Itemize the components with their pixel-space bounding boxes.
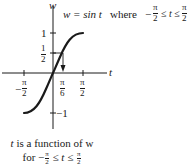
tick-label-t-pi-over-2: π 2: [80, 78, 85, 98]
tick-label-t-pi-over-6: π 6: [60, 78, 65, 98]
caption-line-1: t is a function of w: [0, 137, 104, 149]
frac-num: π: [45, 151, 49, 158]
frac-num: π: [22, 78, 27, 87]
arrow-down-icon: [61, 65, 66, 72]
frac-num: π: [77, 151, 81, 158]
frac-den: 2: [80, 89, 85, 98]
w-axis-label: w: [49, 0, 56, 11]
equation-minus: −: [145, 9, 151, 20]
caption-relation: ≤ t ≤: [50, 151, 76, 163]
frac-den: 2: [182, 14, 187, 23]
equation-lhs: w = sin t: [63, 8, 102, 20]
caption-frac-right: π2: [77, 151, 81, 166]
frac-den: 2: [41, 55, 46, 64]
caption-frac-left: π2: [45, 151, 49, 166]
caption-for: for: [22, 151, 38, 163]
frac-den: 2: [77, 159, 81, 166]
tick-label-w-half: 1 2: [41, 44, 46, 64]
frac-num: 1: [41, 44, 46, 53]
tick-label-w-1: 1: [41, 28, 47, 39]
frac-num: π: [80, 78, 85, 87]
frac-den: 2: [153, 14, 158, 23]
t-axis-label: t: [109, 67, 112, 78]
caption-line-2: for −π2 ≤ t ≤ π2: [0, 151, 104, 166]
caption-rest: is a function of w: [14, 137, 94, 149]
tick-label-w-minus-1: −1: [56, 108, 68, 119]
equation-frac-right: π 2: [182, 3, 187, 23]
tick-minus-sign: −: [15, 84, 21, 95]
caption-minus: −: [38, 151, 44, 163]
frac-den: 2: [22, 89, 27, 98]
equation-frac-left: π 2: [153, 3, 158, 23]
frac-num: π: [60, 78, 65, 87]
frac-num: π: [153, 3, 158, 12]
frac-den: 2: [45, 159, 49, 166]
equation-label: w = sin t: [63, 9, 102, 20]
equation-relation: ≤ t ≤: [161, 9, 180, 19]
tick-label-t-minus-pi-over-2: π 2: [22, 78, 27, 98]
frac-den: 6: [60, 89, 65, 98]
equation-where: where: [110, 9, 137, 20]
frac-num: π: [182, 3, 187, 12]
